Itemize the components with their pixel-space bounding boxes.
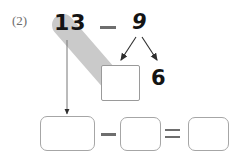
minus-sign-top xyxy=(100,26,116,29)
answer-box-subtrahend[interactable] xyxy=(120,117,161,151)
decomposition-right-part-value: 6 xyxy=(151,68,166,89)
arrow-branch-left xyxy=(121,37,136,60)
problem-number-label: (2) xyxy=(12,14,27,27)
decomposition-left-part-box[interactable] xyxy=(101,65,140,101)
answer-box-result[interactable] xyxy=(188,117,229,151)
worksheet-page: (2) 13 9 6 xyxy=(0,0,239,153)
arrow-branch-right xyxy=(142,37,157,60)
subtrahend-value: 9 xyxy=(132,12,147,33)
minuend-value: 13 xyxy=(54,12,87,34)
minus-sign-bottom xyxy=(101,133,116,136)
answer-box-minuend[interactable] xyxy=(40,116,95,151)
equals-sign-upper-bar xyxy=(165,129,180,131)
equals-sign-lower-bar xyxy=(165,136,180,138)
